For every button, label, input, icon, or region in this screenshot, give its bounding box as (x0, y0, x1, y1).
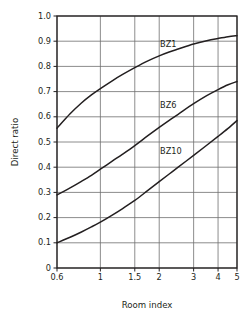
x-tick-label: 1 (98, 272, 103, 282)
series-label-bz6: BZ6 (160, 100, 176, 110)
x-tick-label: 1.5 (128, 272, 141, 282)
x-tick-label: 2 (157, 272, 162, 282)
x-tick-label: 5 (234, 272, 239, 282)
x-axis-title: Room index (122, 300, 173, 310)
series-label-bz10: BZ10 (160, 146, 182, 156)
y-tick-label: 0.2 (38, 212, 51, 222)
y-tick-label: 0.4 (38, 162, 51, 172)
series-label-bz1: BZ1 (160, 39, 176, 49)
y-tick-label: 0.6 (38, 111, 51, 121)
y-tick-label: 0.1 (38, 237, 51, 247)
y-tick-label: 0.7 (38, 86, 51, 96)
y-tick-label: 0.9 (38, 36, 51, 46)
y-axis-title: Direct ratio (10, 118, 20, 166)
x-tick-label: 4 (215, 272, 220, 282)
y-tick-label: 0 (46, 263, 51, 273)
x-tick-label: 0.6 (50, 272, 63, 282)
direct-ratio-vs-room-index-chart: BZ1BZ6BZ10 00.10.20.30.40.50.60.70.80.91… (0, 0, 249, 315)
chart-figure: BZ1BZ6BZ10 00.10.20.30.40.50.60.70.80.91… (0, 0, 249, 315)
x-tick-label: 3 (191, 272, 196, 282)
y-tick-label: 0.5 (38, 137, 51, 147)
y-tick-label: 0.3 (38, 187, 51, 197)
y-tick-label: 0.8 (38, 61, 51, 71)
y-tick-label: 1.0 (38, 11, 51, 21)
